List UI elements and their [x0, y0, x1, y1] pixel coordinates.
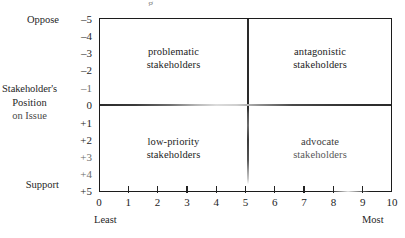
quadrant-tl-line-1: problematic — [148, 46, 199, 57]
quadrant-br-line-1: advocate — [301, 136, 339, 147]
quadrant-br-line-2: stakeholders — [255, 148, 385, 161]
x-tick-mark-3 — [186, 186, 187, 193]
y-tick-4: +4 — [66, 169, 92, 180]
y-axis-title-line-2: Position — [0, 96, 59, 110]
x-tick-label-7: 7 — [294, 196, 314, 208]
quadrant-tr-line-2: stakeholders — [255, 58, 385, 71]
x-tick-label-3: 3 — [177, 196, 197, 208]
y-tick--4: –4 — [66, 31, 92, 42]
quadrant-tl-line-2: stakeholders — [110, 58, 237, 71]
quadrant-label-antagonistic: antagonistic stakeholders — [255, 45, 385, 71]
x-tick-mark-2 — [157, 186, 158, 193]
x-tick-mark-1 — [128, 186, 129, 193]
plot-frame: problematic stakeholders antagonistic st… — [99, 18, 392, 192]
y-tick--1: –1 — [66, 83, 92, 94]
x-tick-label-1: 1 — [118, 196, 138, 208]
x-tick-mark-4 — [216, 186, 217, 193]
y-tick-2: +2 — [66, 135, 92, 146]
x-tick-label-6: 6 — [265, 196, 285, 208]
y-axis-title-line-3: on Issue — [0, 109, 59, 123]
x-axis-label-least: Least — [94, 214, 117, 226]
x-tick-label-9: 9 — [353, 196, 373, 208]
quadrant-label-problematic: problematic stakeholders — [110, 45, 237, 71]
quadrant-bl-line-1: low-priority — [148, 136, 200, 147]
horizontal-divider-at-y0 — [100, 104, 391, 106]
x-tick-mark-7 — [303, 186, 304, 193]
y-axis-label-support: Support — [0, 179, 59, 191]
quadrant-tr-line-1: antagonistic — [294, 46, 346, 57]
x-tick-label-10: 10 — [382, 196, 402, 208]
x-tick-label-0: 0 — [89, 196, 109, 208]
quadrant-bl-line-2: stakeholders — [110, 148, 237, 161]
y-axis-title-line-1: Stakeholder's — [0, 82, 59, 96]
quadrant-label-low-priority: low-priority stakeholders — [110, 135, 237, 161]
x-tick-mark-9 — [362, 186, 363, 193]
y-tick-1: +1 — [66, 118, 92, 129]
quadrant-label-advocate: advocate stakeholders — [255, 135, 385, 161]
x-tick-label-4: 4 — [206, 196, 226, 208]
x-tick-mark-8 — [333, 186, 334, 193]
x-tick-label-5: 5 — [236, 196, 256, 208]
y-tick--5: –5 — [66, 14, 92, 25]
y-axis-label-oppose: Oppose — [0, 14, 59, 26]
y-axis-tick-labels: –5 –4 –3 –2 –1 0 +1 +2 +3 +4 +5 — [62, 0, 92, 238]
y-tick--2: –2 — [66, 65, 92, 76]
x-tick-label-2: 2 — [148, 196, 168, 208]
x-tick-mark-5 — [245, 186, 246, 193]
stakeholder-position-quadrant-figure: g Oppose Support Stakeholder's Position … — [0, 0, 405, 238]
x-axis-label-most: Most — [362, 214, 384, 226]
x-tick-label-8: 8 — [323, 196, 343, 208]
cropped-title-remnant: g — [148, 0, 162, 6]
y-tick-3: +3 — [66, 152, 92, 163]
y-axis-word-labels: Oppose Support Stakeholder's Position on… — [0, 0, 59, 238]
y-axis-title: Stakeholder's Position on Issue — [0, 82, 59, 123]
y-tick--3: –3 — [66, 48, 92, 59]
y-tick-0: 0 — [66, 100, 92, 111]
x-tick-mark-6 — [274, 186, 275, 193]
